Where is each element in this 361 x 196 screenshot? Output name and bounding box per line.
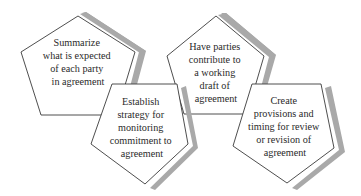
step-establish-line-3: monitoring	[118, 122, 163, 133]
step-create: Create provisions and timing for review …	[233, 84, 345, 190]
step-have-parties-line-2: contribute to	[189, 54, 241, 65]
step-summarize-line-3: of each party	[50, 63, 104, 74]
step-summarize-line-4: in agreement	[52, 76, 105, 87]
step-summarize-line-1: Summarize	[54, 37, 101, 48]
step-have-parties-line-4: draft of	[200, 80, 231, 91]
step-create-line-4: or revision of	[256, 134, 311, 145]
step-establish-line-5: agreement	[121, 148, 164, 159]
pentagon-process-diagram: Summarize what is expected of each party…	[0, 0, 361, 196]
step-have-parties-line-5: agreement	[195, 93, 238, 104]
step-create-line-5: agreement	[264, 147, 307, 158]
step-create-line-2: provisions and	[254, 108, 314, 119]
step-have-parties-line-1: Have parties	[189, 41, 240, 52]
step-have-parties-line-3: a working	[194, 67, 235, 78]
step-have-parties-label: Have parties contribute to a working dra…	[189, 41, 243, 104]
step-establish-line-4: commitment to	[110, 135, 172, 146]
step-establish-line-1: Establish	[122, 96, 159, 107]
step-create-line-3: timing for review	[248, 121, 320, 132]
step-establish-line-2: strategy for	[117, 109, 164, 120]
step-create-line-1: Create	[270, 95, 297, 106]
step-summarize-line-2: what is expected	[43, 50, 111, 61]
